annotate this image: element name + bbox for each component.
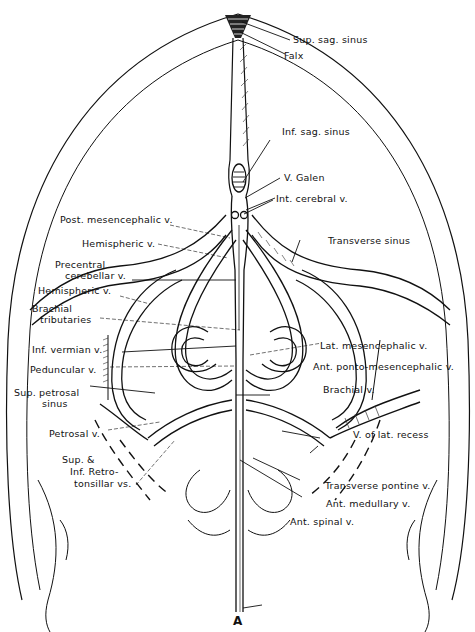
label-sup-sag-sinus: Sup. sag. sinus: [293, 34, 368, 45]
label-brachial-tributaries-line2: tributaries: [40, 314, 91, 325]
label-petrosal-v: Petrosal v.: [49, 428, 100, 439]
label-ant-ponto-mesencephalic-v: Ant. ponto-mesencephalic v.: [313, 361, 454, 372]
label-inf-sag-sinus: Inf. sag. sinus: [282, 126, 350, 137]
label-lat-mesencephalic-v: Lat. mesencephalic v.: [320, 340, 427, 351]
label-transverse-pontine-v: Transverse pontine v.: [325, 480, 431, 491]
label-v-of-lat-recess: V. of lat. recess: [353, 429, 429, 440]
label-v-galen: V. Galen: [284, 172, 325, 183]
label-transverse-sinus: Transverse sinus: [328, 235, 410, 246]
label-ant-medullary-v: Ant. medullary v.: [326, 498, 410, 509]
label-hemispheric-v-upper: Hemispheric v.: [82, 238, 155, 249]
label-retrotonsillar-line3: tonsillar vs.: [74, 478, 131, 489]
label-precentral-cerebellar-v-line2: cerebellar v.: [65, 270, 126, 281]
label-peduncular-v: Peduncular v.: [30, 364, 96, 375]
label-int-cerebral-v: Int. cerebral v.: [276, 193, 348, 204]
label-sup-petrosal-sinus-line1: Sup. petrosal: [14, 387, 79, 398]
label-ant-spinal-v: Ant. spinal v.: [290, 516, 354, 527]
label-precentral-cerebellar-v-line1: Precentral: [55, 259, 105, 270]
label-inf-vermian-v: Inf. vermian v.: [32, 344, 102, 355]
label-retrotonsillar-line1: Sup. &: [62, 454, 95, 465]
label-retrotonsillar-line2: Inf. Retro-: [70, 466, 119, 477]
label-falx: Falx: [284, 50, 303, 61]
label-sup-petrosal-sinus-line2: sinus: [42, 398, 68, 409]
label-brachial-v: Brachial v.: [323, 384, 375, 395]
figure-panel-label: A: [233, 614, 242, 628]
label-hemispheric-v-lower: Hemispheric v.: [38, 285, 111, 296]
label-brachial-tributaries-line1: Brachial: [32, 303, 72, 314]
label-post-mesencephalic-v: Post. mesencephalic v.: [60, 214, 173, 225]
